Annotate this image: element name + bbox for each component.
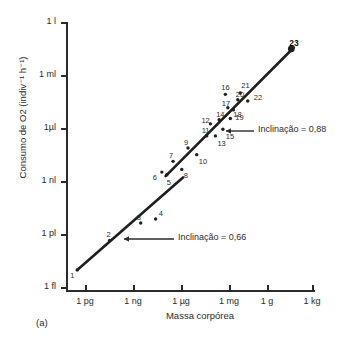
point-label-21: 21 — [241, 82, 249, 90]
point-label-15: 15 — [226, 133, 234, 141]
figure-panel: 1 l 1 ml 1µl 1 nl 1 pl 1 fl 1 pg 1 ng 1 … — [0, 0, 356, 346]
point-label-3: 3 — [137, 214, 141, 222]
fit-line-upper-segment — [166, 47, 294, 176]
point-label-1: 1 — [70, 272, 74, 280]
x-axis-title: Massa corpórea — [120, 310, 280, 321]
x-tick-label-1kg: 1 kg — [292, 296, 332, 306]
point-label-16: 16 — [221, 84, 229, 92]
point-label-23: 23 — [289, 39, 298, 47]
y-tick-1ml — [61, 75, 67, 77]
point-label-9: 9 — [184, 139, 188, 147]
y-tick-label-1l: 1 l — [46, 17, 56, 26]
point-label-12: 12 — [201, 117, 209, 125]
point-label-8: 8 — [184, 172, 188, 180]
point-label-6: 6 — [153, 174, 157, 182]
data-point-6 — [160, 170, 163, 173]
point-label-13: 13 — [217, 140, 225, 148]
point-label-22: 22 — [254, 94, 262, 102]
point-label-11: 11 — [202, 127, 210, 135]
point-label-7: 7 — [169, 152, 173, 160]
x-axis-line — [66, 290, 315, 292]
slope-annotation-066: Inclinação = 0,66 — [178, 232, 246, 242]
y-tick-1fl — [61, 287, 67, 289]
x-tick-label-1ug: 1 µg — [161, 296, 201, 306]
x-tick-1mg — [229, 285, 231, 291]
point-label-17: 17 — [222, 100, 230, 108]
data-point-16 — [224, 93, 227, 96]
y-axis-title: Consumo de O2 (indiv⁻¹ h⁻¹) — [17, 18, 28, 218]
x-tick-1ng — [133, 285, 135, 291]
y-tick-label-1ul: 1µl — [44, 123, 56, 132]
point-label-14: 14 — [216, 111, 224, 119]
y-tick-label-1nl: 1 nl — [41, 176, 56, 185]
y-tick-label-1fl: 1 fl — [44, 282, 56, 291]
fit-line-lower-segment — [77, 177, 183, 269]
point-label-5: 5 — [167, 179, 171, 187]
data-point-4 — [154, 217, 157, 220]
data-point-22 — [246, 99, 249, 102]
data-point-13 — [214, 134, 217, 137]
data-point-10 — [195, 153, 198, 156]
data-point-15 — [221, 128, 224, 131]
x-tick-label-1pg: 1 pg — [65, 296, 105, 306]
point-label-19: 19 — [235, 114, 243, 122]
point-label-20: 20 — [236, 91, 244, 99]
panel-label: (a) — [36, 317, 48, 328]
data-point-1 — [76, 268, 79, 271]
data-point-5 — [165, 173, 168, 176]
y-axis-line — [66, 22, 68, 291]
y-tick-label-1pl: 1 pl — [41, 229, 56, 238]
data-point-8 — [180, 168, 183, 171]
y-tick-label-1ml: 1 ml — [39, 70, 56, 79]
y-tick-1pl — [61, 234, 67, 236]
point-label-10: 10 — [199, 158, 207, 166]
y-tick-1ul — [61, 128, 67, 130]
x-tick-label-1ng: 1 ng — [113, 296, 153, 306]
x-tick-1ug — [181, 285, 183, 291]
data-layer — [0, 0, 356, 346]
arrow-slope-066 — [124, 236, 174, 242]
x-tick-1kg — [312, 285, 314, 291]
x-tick-label-1g: 1 g — [247, 296, 287, 306]
point-label-2: 2 — [107, 231, 111, 239]
x-tick-1pg — [85, 285, 87, 291]
x-tick-1g — [267, 285, 269, 291]
x-tick-label-1mg: 1 mg — [209, 296, 249, 306]
data-point-18 — [229, 117, 232, 120]
y-tick-1nl — [61, 181, 67, 183]
point-label-4: 4 — [159, 210, 163, 218]
y-tick-1l — [61, 22, 67, 24]
slope-annotation-088: Inclinação = 0,88 — [258, 124, 326, 134]
